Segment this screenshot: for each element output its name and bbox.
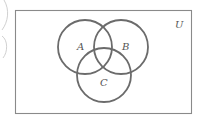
set-c-label: C	[100, 77, 108, 88]
scan-edge-curve	[2, 0, 8, 58]
universe-label: U	[175, 19, 184, 30]
venn-diagram: U A B C	[0, 0, 208, 125]
set-b-label: B	[121, 41, 129, 52]
set-a-label: A	[76, 41, 84, 52]
